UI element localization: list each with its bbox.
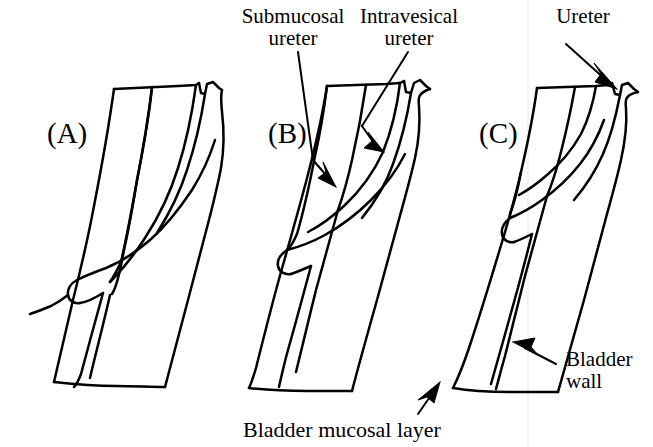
panel-label-a-text: (A) xyxy=(47,117,87,149)
callout-ureter: Ureter xyxy=(538,5,628,27)
callout-bladder-wall: Bladder wall xyxy=(566,348,650,392)
callout-submucosal-ureter-line1: Submucosal xyxy=(237,5,349,27)
callout-submucosal-ureter-line2: ureter xyxy=(237,27,349,49)
ureter-bladder-wall-diagram: Submucosal ureter Intravesical ureter Ur… xyxy=(0,0,653,447)
callout-intravesical-ureter-line1: Intravesical xyxy=(353,5,465,27)
callout-intravesical-ureter: Intravesical ureter xyxy=(353,5,465,49)
callout-bladder-wall-line1: Bladder xyxy=(566,348,650,370)
callout-bladder-mucosal-layer: Bladder mucosal layer xyxy=(243,418,441,441)
callout-leader-lines xyxy=(0,0,653,447)
callout-intravesical-ureter-line2: ureter xyxy=(353,27,465,49)
callout-bladder-mucosal-layer-line1: Bladder mucosal layer xyxy=(243,417,441,442)
panel-label-b-text: (B) xyxy=(268,117,307,149)
panel-label-b: (B) xyxy=(268,118,307,148)
callout-bladder-wall-line2: wall xyxy=(566,370,650,392)
panel-label-c: (C) xyxy=(479,118,518,148)
panel-label-a: (A) xyxy=(47,118,87,148)
callout-submucosal-ureter: Submucosal ureter xyxy=(237,5,349,49)
panel-label-c-text: (C) xyxy=(479,117,518,149)
callout-ureter-line1: Ureter xyxy=(556,4,610,28)
